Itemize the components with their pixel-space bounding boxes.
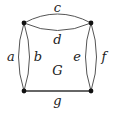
edge-b: [24, 23, 30, 91]
label-c: c: [54, 0, 62, 15]
edge-e: [86, 23, 92, 91]
edge-a: [19, 23, 25, 91]
label-d: d: [53, 32, 61, 47]
label-g: g: [53, 93, 61, 108]
label-b: b: [34, 49, 42, 64]
edge-f: [91, 23, 97, 91]
label-graph-name: G: [52, 63, 62, 78]
vertex-top-left: [22, 21, 27, 26]
label-a: a: [7, 49, 15, 64]
edge-d: [24, 23, 91, 31]
vertex-top-right: [89, 21, 94, 26]
edge-c: [24, 14, 91, 23]
label-f: f: [101, 49, 109, 64]
label-e: e: [73, 49, 81, 64]
graph-diagram: c d a b e f G g: [0, 0, 115, 113]
vertex-bottom-left: [22, 89, 27, 94]
vertex-bottom-right: [89, 89, 94, 94]
